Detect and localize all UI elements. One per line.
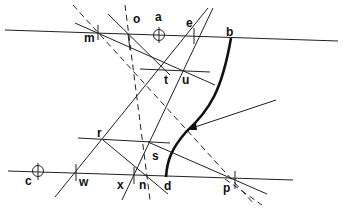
line-e-w (55, 8, 208, 197)
bottom-line (8, 171, 293, 180)
dashed-p-ext (225, 179, 262, 205)
label-u: u (182, 73, 189, 87)
label-m: m (84, 31, 95, 45)
diagram-canvas: m o a e b t u r s c w x n d p (0, 0, 343, 211)
curve-b-d (166, 38, 231, 177)
tu-line (140, 69, 210, 72)
label-x: x (117, 178, 124, 192)
arrowhead-icon (187, 123, 197, 130)
label-r: r (97, 126, 102, 140)
geometry-diagram: m o a e b t u r s c w x n d p (0, 0, 343, 211)
label-p: p (223, 181, 230, 195)
label-b: b (226, 25, 233, 39)
label-d: d (164, 179, 171, 193)
label-s: s (152, 149, 159, 163)
label-w: w (78, 175, 89, 189)
arrow-line (192, 100, 276, 128)
label-a: a (155, 10, 162, 24)
label-t: t (164, 73, 168, 87)
label-o: o (133, 12, 140, 26)
label-n: n (139, 178, 146, 192)
top-line (5, 30, 338, 41)
label-c: c (25, 174, 32, 188)
rs-line (78, 138, 170, 143)
label-e: e (186, 16, 193, 30)
